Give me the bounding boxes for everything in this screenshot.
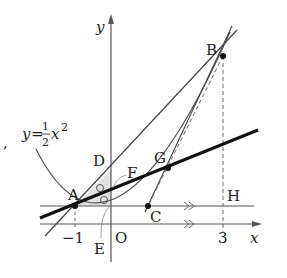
point-B — [220, 53, 226, 59]
label-D: D — [93, 152, 105, 170]
svg-text:x: x — [51, 125, 60, 143]
svg-text:2: 2 — [61, 121, 68, 134]
label-B: B — [206, 41, 217, 59]
label-A: A — [67, 186, 79, 204]
label-C: C — [150, 208, 161, 226]
tick-3: 3 — [218, 229, 228, 247]
origin-label: O — [115, 229, 127, 247]
label-E: E — [94, 240, 105, 258]
diagram-canvas: y x O −1 3 A B C D E F G H , y = 1 2 x 2 — [0, 0, 287, 278]
svg-text:1: 1 — [42, 120, 49, 133]
x-axis-arrow-icon — [252, 221, 262, 227]
label-G: G — [154, 149, 166, 167]
dashed-BC — [148, 56, 223, 206]
y-axis-arrow-icon — [108, 14, 114, 24]
equation-label: y = 1 2 x 2 — [21, 120, 68, 149]
label-F: F — [127, 164, 137, 182]
svg-text:y: y — [21, 125, 31, 143]
svg-text:2: 2 — [42, 136, 49, 149]
comma: , — [3, 134, 8, 152]
label-H: H — [227, 187, 240, 205]
y-axis-label: y — [95, 18, 105, 36]
x-axis-label: x — [250, 229, 259, 247]
line-BC — [145, 26, 232, 212]
tick-neg1: −1 — [62, 229, 84, 247]
leader-E — [101, 206, 110, 238]
